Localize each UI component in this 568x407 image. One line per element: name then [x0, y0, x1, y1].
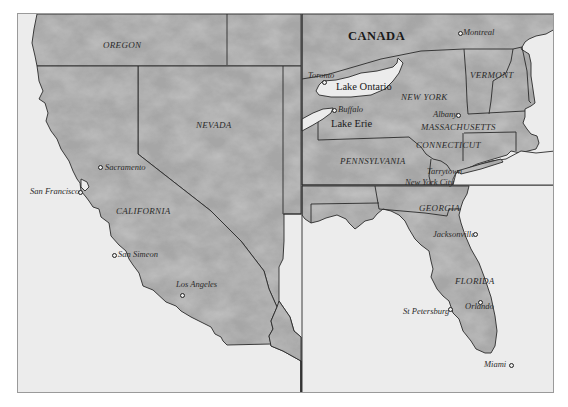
label-oregon: OREGON	[103, 41, 141, 50]
map-frame: OREGON NEVADA CALIFORNIA Sacramento San …	[17, 13, 554, 393]
label-san-francisco: San Francisco	[30, 187, 79, 196]
label-los-angeles: Los Angeles	[176, 280, 217, 289]
city-marker-jacksonville	[473, 232, 478, 237]
label-california: CALIFORNIA	[116, 207, 171, 216]
city-marker-buffalo	[332, 108, 337, 113]
label-pennsylvania: PENNSYLVANIA	[340, 157, 406, 166]
city-marker-st-petersburg	[448, 307, 453, 312]
city-marker-san-simeon	[112, 253, 117, 258]
city-marker-albany	[456, 113, 461, 118]
label-montreal: Montreal	[463, 28, 494, 37]
label-georgia: GEORGIA	[419, 204, 460, 213]
label-buffalo: Buffalo	[338, 105, 363, 114]
arizona-region	[269, 301, 301, 393]
label-tarrytown: Tarrytown	[427, 167, 462, 176]
label-albany: Albany	[433, 110, 457, 119]
label-jacksonville: Jacksonville	[433, 230, 475, 239]
city-marker-sacramento	[98, 165, 103, 170]
label-florida: FLORIDA	[455, 277, 495, 286]
label-sacramento: Sacramento	[105, 163, 146, 172]
label-massachusetts: MASSACHUSETTS	[421, 123, 496, 132]
label-lake-ontario: Lake Ontario	[336, 82, 392, 93]
city-marker-toronto	[322, 80, 327, 85]
label-new-york: NEW YORK	[401, 93, 448, 102]
label-lake-erie: Lake Erie	[331, 119, 372, 130]
label-vermont: VERMONT	[470, 71, 514, 80]
label-san-simeon: San Simeon	[118, 250, 158, 259]
oregon-region	[32, 14, 301, 66]
label-miami: Miami	[484, 360, 506, 369]
label-canada: CANADA	[348, 30, 405, 43]
city-marker-miami	[509, 363, 514, 368]
label-toronto: Toronto	[308, 71, 334, 80]
label-orlando: Orlando	[465, 302, 494, 311]
label-new-york-city: New York City	[405, 178, 454, 187]
label-nevada: NEVADA	[196, 121, 232, 130]
label-connecticut: CONNECTICUT	[416, 141, 481, 150]
label-st-petersburg: St Petersburg	[403, 307, 449, 316]
city-marker-los-angeles	[180, 293, 185, 298]
